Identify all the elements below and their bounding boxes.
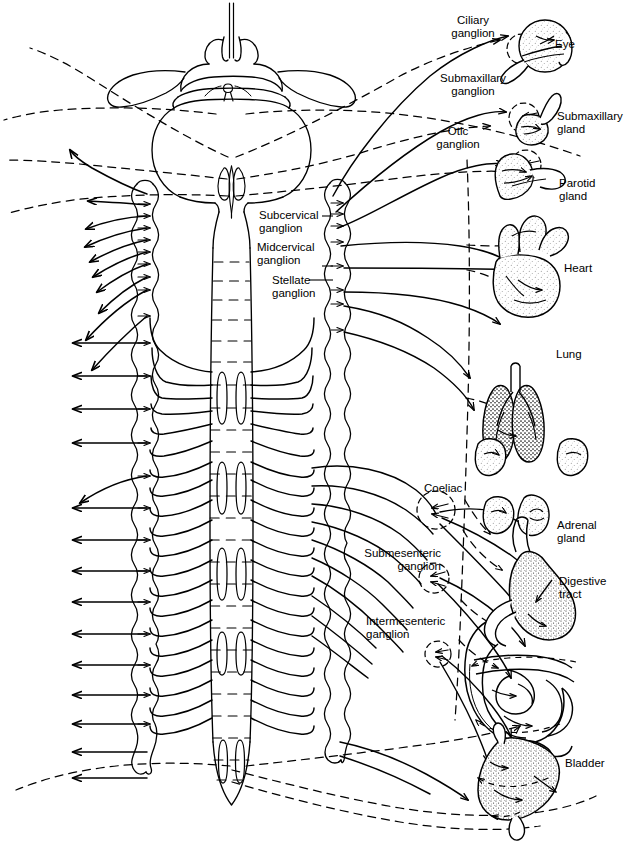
label-heart: Heart (564, 262, 592, 275)
autonomic-nervous-system-diagram: Ciliary ganglion Eye Submaxillary gangli… (0, 0, 635, 843)
label-bladder: Bladder (565, 757, 605, 770)
bladder-organ (478, 723, 559, 840)
right-rami-communicantes (251, 318, 314, 734)
parasympathetic-cranial-outflow (4, 40, 580, 214)
label-submaxillary-gland: Submaxillary gland (557, 110, 623, 135)
label-intermesenteric-ganglion: Intermesenteric ganglion (366, 615, 445, 640)
label-adrenal-gland: Adrenal gland (557, 519, 597, 544)
submaxillary-gland-organ (516, 94, 561, 146)
label-midcervical-ganglion: Midcervical ganglion (257, 241, 315, 266)
left-chain-ganglion-marks (138, 204, 150, 724)
label-submesenteric-ganglion: Submesenteric ganglion (355, 547, 441, 572)
label-ciliary-ganglion: Ciliary ganglion (438, 14, 508, 39)
intermesenteric-ganglion-circle (425, 641, 451, 667)
label-lung: Lung (556, 348, 582, 361)
right-sympathetic-chain (324, 179, 350, 763)
label-eye: Eye (555, 38, 575, 51)
left-rami-communicantes (150, 318, 212, 734)
label-parotid-gland: Parotid gland (559, 177, 595, 202)
label-otic-ganglion: Otic ganglion (428, 125, 488, 150)
parotid-gland-organ (495, 154, 565, 200)
abdominal-ganglia (417, 491, 455, 667)
label-coeliac: Coeliac (424, 482, 462, 495)
heart-organ (493, 216, 568, 317)
label-digestive-tract: Digestive tract (559, 575, 606, 600)
label-subcervical-ganglion: Subcervical ganglion (259, 209, 318, 234)
label-submaxillary-ganglion: Submaxillary ganglion (424, 72, 522, 97)
digestive-tract-organ (465, 517, 576, 757)
spinal-cord (210, 248, 253, 805)
diagram-canvas (0, 0, 635, 843)
label-stellate-ganglion: Stellate ganglion (272, 274, 315, 299)
adrenal-gland-organ (483, 495, 549, 535)
